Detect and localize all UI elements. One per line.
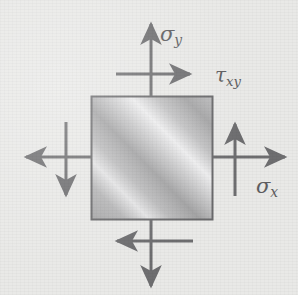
diagram-canvas — [0, 0, 298, 295]
tau-xy-label: τxy — [215, 65, 241, 88]
tau-xy-symbol: τ — [215, 63, 226, 87]
tau-xy-subscript: xy — [226, 74, 241, 89]
stress-element-square — [92, 97, 213, 220]
sigma-y-subscript: y — [174, 32, 182, 48]
stress-element-figure: σy τxy σx — [0, 0, 298, 295]
sigma-y-symbol: σ — [160, 22, 174, 46]
sigma-x-label: σx — [256, 176, 278, 200]
sigma-y-label: σy — [160, 24, 182, 48]
sigma-x-subscript: x — [270, 184, 278, 200]
element-body — [92, 97, 213, 220]
sigma-x-symbol: σ — [256, 174, 270, 198]
